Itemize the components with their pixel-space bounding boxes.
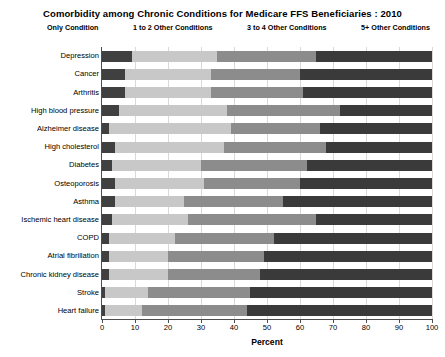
x-axis-tick-label: 30 xyxy=(197,323,205,332)
bar-segment xyxy=(125,69,211,80)
y-axis-category-label: Asthma xyxy=(0,198,99,206)
bar-segment xyxy=(320,123,432,134)
chart-legend: Only Condition 1 to 2 Other Conditions 3… xyxy=(40,24,430,32)
chart-title: Comorbidity among Chronic Conditions for… xyxy=(0,8,445,19)
bar-segment xyxy=(102,87,125,98)
bar-row xyxy=(102,105,432,116)
bar-segment xyxy=(316,51,432,62)
y-axis-line xyxy=(101,47,102,320)
legend-item-3-to-4-other-conditions: 3 to 4 Other Conditions xyxy=(240,24,326,32)
x-axis-tick-label: 20 xyxy=(164,323,172,332)
bar-segment xyxy=(102,160,112,171)
legend-swatch-icon xyxy=(126,26,131,31)
bar-row xyxy=(102,287,432,298)
bar-segment xyxy=(211,87,303,98)
plot-area xyxy=(102,47,432,320)
legend-swatch-icon xyxy=(40,26,45,31)
bar-segment xyxy=(109,233,175,244)
bar-segment xyxy=(105,305,141,316)
x-axis-tick-label: 90 xyxy=(395,323,403,332)
bar-segment xyxy=(125,87,211,98)
x-axis-title: Percent xyxy=(102,337,432,347)
bar-row xyxy=(102,123,432,134)
x-axis-tick-label: 10 xyxy=(131,323,139,332)
bar-segment xyxy=(119,105,228,116)
bar-segment xyxy=(102,269,109,280)
x-axis-tick-label: 100 xyxy=(426,323,439,332)
x-axis-tick-label: 0 xyxy=(100,323,104,332)
x-axis-tick-labels: 0102030405060708090100 xyxy=(102,323,438,335)
y-axis-category-labels: DepressionCancerArthritisHigh blood pres… xyxy=(0,47,99,320)
legend-swatch-icon xyxy=(354,26,359,31)
bar-segment xyxy=(274,233,432,244)
bar-row xyxy=(102,178,432,189)
bar-segment xyxy=(102,196,115,207)
legend-item-only-condition: Only Condition xyxy=(40,24,99,32)
bar-segment xyxy=(217,51,316,62)
legend-label: Only Condition xyxy=(47,24,99,32)
bar-segment xyxy=(211,69,300,80)
bar-segment xyxy=(109,251,168,262)
bar-segment xyxy=(109,123,231,134)
bar-row xyxy=(102,251,432,262)
bar-segment xyxy=(307,160,432,171)
x-axis-tick-label: 70 xyxy=(329,323,337,332)
gridline xyxy=(432,47,433,320)
bar-segment xyxy=(300,69,432,80)
bar-segment xyxy=(184,196,283,207)
bar-row xyxy=(102,214,432,225)
legend-item-5-plus-other-conditions: 5+ Other Conditions xyxy=(354,24,430,32)
bar-segment xyxy=(188,214,317,225)
bar-segment xyxy=(102,123,109,134)
legend-label: 3 to 4 Other Conditions xyxy=(247,24,326,32)
legend-label: 5+ Other Conditions xyxy=(361,24,430,32)
bar-segment xyxy=(303,87,432,98)
y-axis-category-label: Atrial fibrillation xyxy=(0,252,99,260)
bar-segment xyxy=(260,269,432,280)
bar-segment xyxy=(102,214,112,225)
y-axis-category-label: Diabetes xyxy=(0,161,99,169)
legend-swatch-icon xyxy=(240,26,245,31)
bar-segment xyxy=(247,305,432,316)
y-axis-category-label: COPD xyxy=(0,234,99,242)
bar-row xyxy=(102,233,432,244)
y-axis-category-label: Stroke xyxy=(0,289,99,297)
bar-segment xyxy=(142,305,248,316)
bar-rows xyxy=(102,47,432,320)
comorbidity-stacked-bar-chart: Comorbidity among Chronic Conditions for… xyxy=(0,0,445,357)
bar-segment xyxy=(102,233,109,244)
bar-segment xyxy=(112,214,188,225)
bar-segment xyxy=(316,214,432,225)
legend-item-1-to-2-other-conditions: 1 to 2 Other Conditions xyxy=(126,24,212,32)
bar-segment xyxy=(175,233,274,244)
bar-segment xyxy=(105,287,148,298)
bar-row xyxy=(102,51,432,62)
bar-segment xyxy=(102,69,125,80)
bar-segment xyxy=(300,178,432,189)
bar-segment xyxy=(231,123,320,134)
bar-row xyxy=(102,196,432,207)
y-axis-category-label: Osteoporosis xyxy=(0,180,99,188)
bar-segment xyxy=(326,142,432,153)
y-axis-category-label: Ischemic heart disease xyxy=(0,216,99,224)
bar-segment xyxy=(102,105,119,116)
bar-segment xyxy=(227,105,339,116)
bar-segment xyxy=(102,178,115,189)
bar-row xyxy=(102,87,432,98)
bar-segment xyxy=(102,51,132,62)
bar-segment xyxy=(115,142,224,153)
x-axis-tick-label: 80 xyxy=(362,323,370,332)
bar-row xyxy=(102,305,432,316)
bar-row xyxy=(102,160,432,171)
x-axis-tick-label: 60 xyxy=(296,323,304,332)
legend-label: 1 to 2 Other Conditions xyxy=(133,24,212,32)
bar-row xyxy=(102,69,432,80)
x-axis-line xyxy=(101,319,433,320)
bar-segment xyxy=(250,287,432,298)
x-axis-tick-label: 40 xyxy=(230,323,238,332)
bar-segment xyxy=(168,269,260,280)
bar-segment xyxy=(112,160,201,171)
bar-segment xyxy=(204,178,300,189)
bar-segment xyxy=(115,196,184,207)
y-axis-category-label: Heart failure xyxy=(0,307,99,315)
